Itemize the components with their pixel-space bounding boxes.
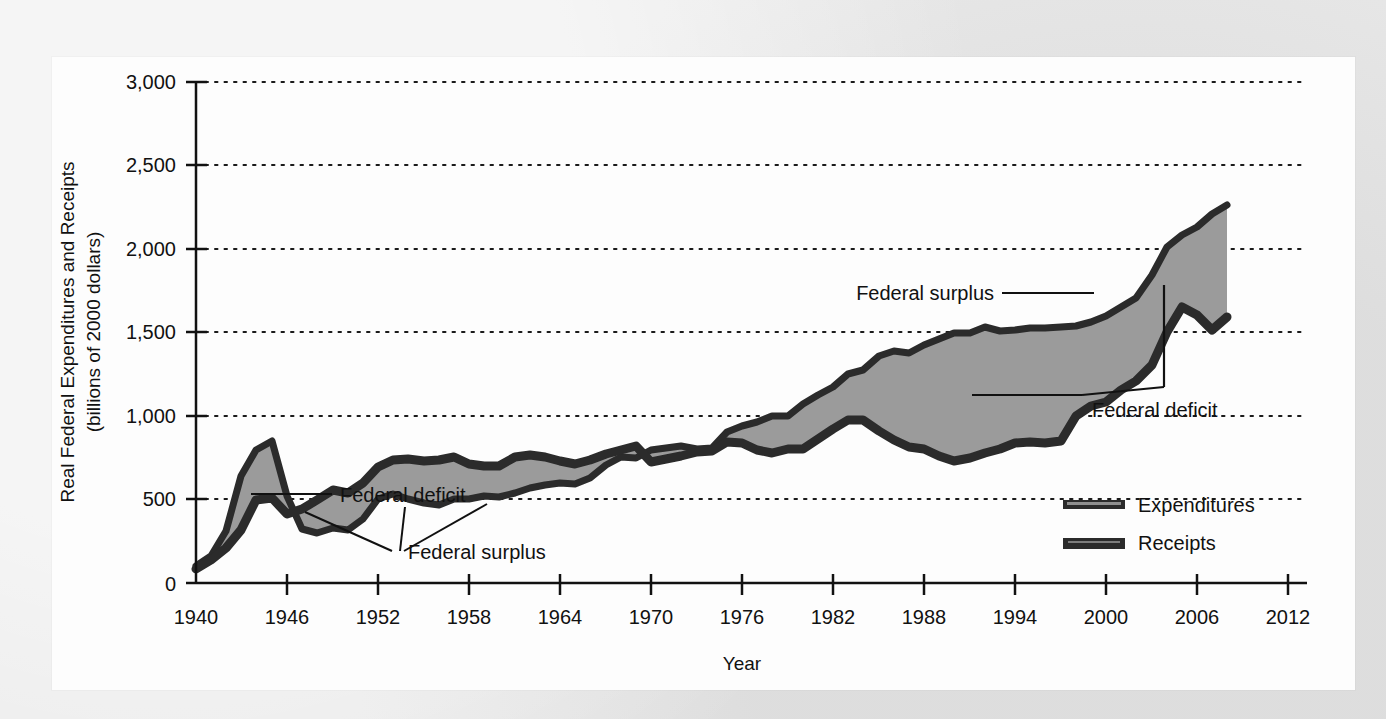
figure-page: 3,000 2,500 2,000 1,500 1,000 500 0 1940…	[0, 0, 1386, 719]
legend-item-expenditures: Expenditures	[1063, 494, 1255, 516]
y-tick-label-1000: 1,000	[126, 405, 176, 427]
x-tick-label-1988: 1988	[902, 606, 947, 628]
x-tick-label-1964: 1964	[538, 606, 583, 628]
legend-label-receipts: Receipts	[1138, 532, 1216, 554]
x-tick-label-1952: 1952	[356, 606, 401, 628]
annotation-federal-surplus-right: Federal surplus	[856, 282, 1094, 304]
y-axis-title-line1: Real Federal Expenditures and Receipts	[57, 161, 78, 502]
x-tick-label-1958: 1958	[447, 606, 492, 628]
y-axis-title-line2: (billions of 2000 dollars)	[83, 232, 104, 433]
y-tick-label-0: 0	[165, 573, 176, 595]
series-shaded-area	[196, 205, 1227, 569]
x-tick-label-2006: 2006	[1175, 606, 1220, 628]
x-axis-ticks	[287, 574, 1288, 595]
y-tick-label-500: 500	[143, 488, 176, 510]
x-tick-label-1982: 1982	[811, 606, 856, 628]
x-tick-label-1940: 1940	[174, 606, 219, 628]
legend-swatch-receipts-inner	[1068, 541, 1120, 543]
y-tick-label-2000: 2,000	[126, 238, 176, 260]
x-tick-label-2000: 2000	[1084, 606, 1129, 628]
legend-item-receipts: Receipts	[1063, 532, 1216, 554]
x-tick-label-2012: 2012	[1266, 606, 1311, 628]
legend-swatch-expenditures-inner	[1067, 502, 1121, 505]
x-tick-label-1946: 1946	[265, 606, 310, 628]
y-tick-labels: 3,000 2,500 2,000 1,500 1,000 500 0	[126, 71, 176, 595]
annotation-label-surplus-right: Federal surplus	[856, 282, 994, 304]
federal-expenditures-receipts-chart: 3,000 2,500 2,000 1,500 1,000 500 0 1940…	[52, 57, 1355, 690]
x-tick-label-1970: 1970	[629, 606, 674, 628]
chart-legend: Expenditures Receipts	[1063, 494, 1255, 554]
y-tick-label-3000: 3,000	[126, 71, 176, 93]
area-between-curves	[196, 205, 1227, 569]
annotation-label-surplus-left: Federal surplus	[408, 541, 546, 563]
x-tick-label-1976: 1976	[720, 606, 765, 628]
leader-line-surplus-left-b	[400, 507, 405, 551]
annotation-label-deficit-left: Federal deficit	[340, 484, 466, 506]
annotation-label-deficit-right: Federal deficit	[1092, 399, 1218, 421]
y-tick-label-1500: 1,500	[126, 321, 176, 343]
legend-swatch-receipts	[1063, 538, 1125, 549]
x-tick-labels: 1940 1946 1952 1958 1964 1970 1976 1982 …	[174, 606, 1311, 628]
x-axis-title: Year	[723, 653, 762, 674]
y-tick-label-2500: 2,500	[126, 154, 176, 176]
chart-panel: 3,000 2,500 2,000 1,500 1,000 500 0 1940…	[52, 57, 1355, 690]
legend-label-expenditures: Expenditures	[1138, 494, 1255, 516]
x-tick-label-1994: 1994	[993, 606, 1038, 628]
